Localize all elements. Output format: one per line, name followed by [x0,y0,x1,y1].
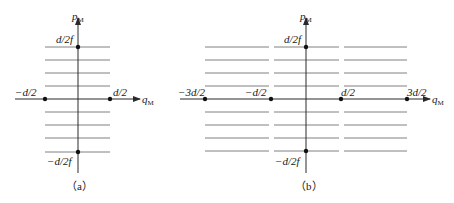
p-axis-label-b: pM [299,10,313,24]
tick-left-a: −d/2 [15,86,37,98]
caption-b: （b） [295,180,323,192]
caption-a: （a） [66,180,93,192]
tick-bottom-a: −d/2f [47,155,73,167]
tick-right-a: d/2 [113,86,128,98]
tick-left-b: −d/2 [245,86,267,98]
tick-far-left-b: −3d/2 [178,86,205,98]
tick-far-right-b: 3d/2 [406,86,427,98]
panel-a: pM qM d/2f −d/2f −d/2 d/2 （a） [15,10,155,192]
tick-top-b: d/2f [284,33,303,45]
tick-right-b: d/2 [341,86,356,98]
tick-bottom-b: −d/2f [275,155,301,167]
phase-space-diagram: pM qM d/2f −d/2f −d/2 d/2 （a） [0,0,454,203]
p-axis-label-a: pM [71,10,85,24]
tick-top-a: d/2f [56,33,75,45]
panel-b: pM qM d/2f −d/2f −3d/2 −d/2 d/2 3d/2 （b） [178,10,445,192]
q-axis-label-b: qM [432,93,445,107]
q-axis-label-a: qM [142,93,155,107]
